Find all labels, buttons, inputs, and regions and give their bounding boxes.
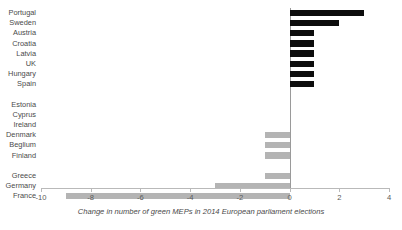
bar-chart: PortugalSwedenAustriaCroatiaLatviaUKHung… — [0, 0, 402, 230]
bar-row — [41, 28, 389, 38]
bar-row — [41, 140, 389, 150]
x-axis-tick — [290, 188, 291, 192]
bar-row — [41, 151, 389, 161]
category-label: Croatia — [0, 39, 36, 49]
category-label: Cyprus — [0, 110, 36, 120]
plot-area — [41, 8, 389, 188]
bar-row — [41, 110, 389, 120]
category-axis-labels: PortugalSwedenAustriaCroatiaLatviaUKHung… — [0, 8, 36, 188]
category-label: Estonia — [0, 100, 36, 110]
bar — [290, 81, 315, 87]
bar-row — [41, 8, 389, 18]
x-axis-tick-label: 2 — [337, 193, 341, 202]
x-axis-tick — [41, 188, 42, 192]
category-label: Finland — [0, 151, 36, 161]
bar — [265, 132, 290, 138]
bar-row — [41, 181, 389, 191]
x-axis-tick — [339, 188, 340, 192]
bar-row — [41, 171, 389, 181]
x-axis-tick — [91, 188, 92, 192]
x-axis-tick — [190, 188, 191, 192]
x-axis-tick — [240, 188, 241, 192]
x-axis-tick-label: -10 — [36, 193, 47, 202]
category-label: Spain — [0, 79, 36, 89]
bar — [66, 193, 290, 199]
bar — [290, 71, 315, 77]
x-axis-line — [41, 188, 389, 189]
bar — [290, 10, 365, 16]
x-axis-tick — [389, 188, 390, 192]
category-label: UK — [0, 59, 36, 69]
category-label: France — [0, 191, 36, 201]
x-axis-tick-label: 4 — [387, 193, 391, 202]
bar — [265, 152, 290, 158]
category-label: Germany — [0, 181, 36, 191]
bar — [265, 173, 290, 179]
bar — [290, 30, 315, 36]
category-label: Portugal — [0, 8, 36, 18]
bar — [290, 61, 315, 67]
x-axis-tick-label: 0 — [287, 193, 291, 202]
bar — [265, 142, 290, 148]
bar-row — [41, 18, 389, 28]
bar — [290, 20, 340, 26]
bar-row — [41, 49, 389, 59]
x-axis-tick-label: -2 — [236, 193, 243, 202]
x-axis-tick-label: -8 — [87, 193, 94, 202]
bar — [290, 40, 315, 46]
category-label: Greece — [0, 171, 36, 181]
x-axis-tick — [140, 188, 141, 192]
bar — [290, 50, 315, 56]
category-label: Hungary — [0, 69, 36, 79]
x-axis-title: Change in number of green MEPs in 2014 E… — [0, 207, 402, 216]
bar-row — [41, 120, 389, 130]
category-label: Denmark — [0, 130, 36, 140]
x-axis-tick-label: -6 — [137, 193, 144, 202]
bar-row — [41, 100, 389, 110]
category-label: Beglium — [0, 140, 36, 150]
bar-row — [41, 90, 389, 100]
x-axis-tick-label: -4 — [187, 193, 194, 202]
bar-row — [41, 130, 389, 140]
category-label: Ireland — [0, 120, 36, 130]
bar-row — [41, 69, 389, 79]
category-label: Austria — [0, 28, 36, 38]
bar-row — [41, 59, 389, 69]
bar-row — [41, 39, 389, 49]
bar-row — [41, 79, 389, 89]
bar-row — [41, 161, 389, 171]
category-label: Sweden — [0, 18, 36, 28]
category-label: Latvia — [0, 49, 36, 59]
